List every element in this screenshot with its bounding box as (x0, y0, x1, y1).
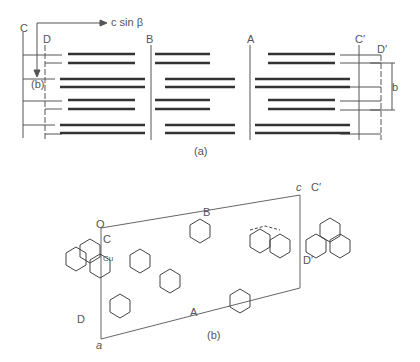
axis-label-b: (b) (31, 79, 44, 90)
label-D-b: D (77, 314, 85, 325)
label-D: D (43, 34, 51, 45)
arrow-down-icon (34, 70, 40, 77)
label-Dprime-b: D′ (303, 255, 313, 266)
label-Dprime: D′ (377, 44, 387, 55)
dimension-b: b (392, 82, 398, 93)
label-Cprime-b: C′ (311, 182, 321, 193)
molecule-stacks (60, 54, 350, 133)
label-B: B (146, 34, 153, 45)
label-Cprime: C′ (355, 34, 365, 45)
figure-canvas (0, 0, 420, 362)
panel-a-caption: (a) (194, 146, 207, 157)
label-origin: O (96, 219, 105, 230)
label-axis-c: c (296, 182, 302, 193)
label-C-b: C (103, 234, 111, 245)
arrow-right-icon (100, 20, 107, 26)
label-A: A (247, 34, 254, 45)
label-axis-a: a (96, 340, 102, 351)
panel-b-caption: (b) (207, 330, 220, 341)
axis-label-c-sin-beta: c sin β (111, 17, 143, 28)
label-A-b: A (190, 307, 197, 318)
label-Cu: Cu (103, 255, 113, 263)
label-B-b: B (203, 207, 210, 218)
label-C: C (20, 23, 28, 34)
